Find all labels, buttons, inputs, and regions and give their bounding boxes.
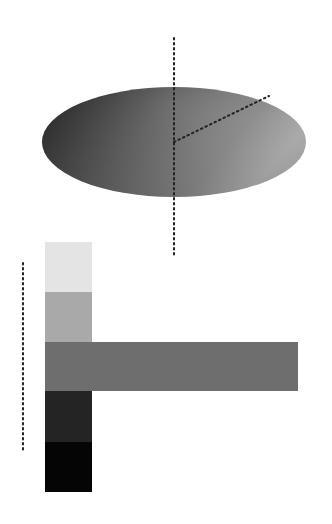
swatch-light (45, 292, 92, 342)
swatch-dark (45, 391, 92, 442)
swatch-lightest (45, 242, 92, 292)
swatch-mid (45, 342, 298, 391)
swatch-darkest (45, 442, 92, 492)
diagram-canvas (0, 0, 332, 524)
